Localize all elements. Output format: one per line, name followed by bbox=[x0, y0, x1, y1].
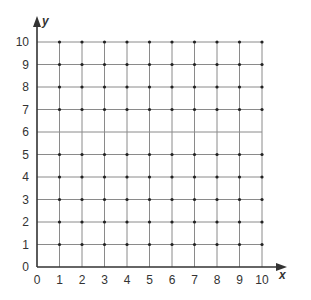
lattice-point bbox=[58, 220, 61, 223]
lattice-point bbox=[80, 220, 83, 223]
lattice-point bbox=[125, 40, 128, 43]
lattice-point bbox=[193, 85, 196, 88]
lattice-point bbox=[193, 63, 196, 66]
lattice-point bbox=[193, 220, 196, 223]
lattice-point bbox=[58, 40, 61, 43]
lattice-point bbox=[215, 243, 218, 246]
lattice-point bbox=[215, 198, 218, 201]
lattice-point bbox=[260, 243, 263, 246]
x-tick-label: 3 bbox=[101, 273, 108, 287]
x-tick-label: 5 bbox=[146, 273, 153, 287]
lattice-point bbox=[148, 220, 151, 223]
lattice-point bbox=[170, 63, 173, 66]
lattice-point bbox=[80, 40, 83, 43]
x-tick-label: 0 bbox=[34, 273, 41, 287]
lattice-point bbox=[170, 243, 173, 246]
x-tick-label: 6 bbox=[169, 273, 176, 287]
lattice-point bbox=[215, 220, 218, 223]
lattice-point bbox=[260, 63, 263, 66]
lattice-point bbox=[260, 153, 263, 156]
lattice-point bbox=[260, 175, 263, 178]
lattice-point bbox=[58, 198, 61, 201]
lattice-point bbox=[103, 108, 106, 111]
x-tick-label: 9 bbox=[236, 273, 243, 287]
lattice-point bbox=[238, 220, 241, 223]
lattice-point bbox=[148, 108, 151, 111]
x-tick-label: 1 bbox=[56, 273, 63, 287]
lattice-point bbox=[80, 243, 83, 246]
lattice-point bbox=[170, 198, 173, 201]
lattice-point bbox=[238, 63, 241, 66]
lattice-point bbox=[125, 85, 128, 88]
lattice-point bbox=[170, 220, 173, 223]
lattice-point bbox=[193, 108, 196, 111]
y-axis-arrow-icon bbox=[33, 16, 41, 27]
lattice-point bbox=[125, 153, 128, 156]
y-tick-label: 1 bbox=[22, 238, 29, 252]
y-tick-label: 9 bbox=[22, 58, 29, 72]
lattice-point bbox=[148, 198, 151, 201]
y-tick-label: 2 bbox=[22, 215, 29, 229]
lattice-point bbox=[170, 108, 173, 111]
tick-labels: 012345678910012345678910 bbox=[16, 35, 269, 287]
lattice-point bbox=[125, 220, 128, 223]
lattice-point bbox=[148, 243, 151, 246]
lattice-point bbox=[170, 85, 173, 88]
lattice-point bbox=[103, 243, 106, 246]
lattice-point bbox=[58, 153, 61, 156]
lattice-point bbox=[80, 63, 83, 66]
coordinate-grid-chart: 012345678910012345678910 x y bbox=[0, 0, 311, 300]
lattice-point bbox=[103, 175, 106, 178]
lattice-point bbox=[148, 40, 151, 43]
x-tick-label: 8 bbox=[214, 273, 221, 287]
lattice-point bbox=[193, 153, 196, 156]
axes bbox=[33, 16, 287, 271]
y-tick-label: 4 bbox=[22, 170, 29, 184]
lattice-point bbox=[58, 175, 61, 178]
lattice-point bbox=[58, 243, 61, 246]
y-tick-label: 8 bbox=[22, 80, 29, 94]
y-tick-label: 7 bbox=[22, 103, 29, 117]
y-tick-label: 6 bbox=[22, 125, 29, 139]
lattice-point bbox=[193, 175, 196, 178]
lattice-point bbox=[260, 85, 263, 88]
lattice-point bbox=[215, 108, 218, 111]
x-tick-label: 10 bbox=[255, 273, 269, 287]
lattice-point bbox=[58, 85, 61, 88]
lattice-point bbox=[170, 175, 173, 178]
x-tick-label: 7 bbox=[191, 273, 198, 287]
lattice-point bbox=[80, 198, 83, 201]
lattice-point bbox=[215, 85, 218, 88]
lattice-point bbox=[193, 40, 196, 43]
lattice-points bbox=[58, 40, 264, 246]
lattice-point bbox=[103, 220, 106, 223]
lattice-point bbox=[215, 175, 218, 178]
lattice-point bbox=[148, 153, 151, 156]
lattice-point bbox=[125, 198, 128, 201]
lattice-point bbox=[125, 108, 128, 111]
y-tick-label: 3 bbox=[22, 193, 29, 207]
lattice-point bbox=[80, 153, 83, 156]
lattice-point bbox=[148, 63, 151, 66]
lattice-point bbox=[103, 40, 106, 43]
lattice-point bbox=[80, 108, 83, 111]
lattice-point bbox=[238, 198, 241, 201]
lattice-point bbox=[215, 63, 218, 66]
lattice-point bbox=[238, 243, 241, 246]
lattice-point bbox=[238, 108, 241, 111]
lattice-point bbox=[260, 108, 263, 111]
lattice-point bbox=[148, 85, 151, 88]
lattice-point bbox=[103, 63, 106, 66]
lattice-point bbox=[103, 198, 106, 201]
x-tick-label: 4 bbox=[124, 273, 131, 287]
lattice-point bbox=[148, 175, 151, 178]
y-tick-label: 0 bbox=[22, 260, 29, 274]
lattice-point bbox=[260, 198, 263, 201]
lattice-point bbox=[80, 85, 83, 88]
lattice-point bbox=[103, 85, 106, 88]
lattice-point bbox=[58, 108, 61, 111]
lattice-point bbox=[215, 40, 218, 43]
lattice-point bbox=[58, 63, 61, 66]
lattice-point bbox=[170, 153, 173, 156]
lattice-point bbox=[125, 175, 128, 178]
